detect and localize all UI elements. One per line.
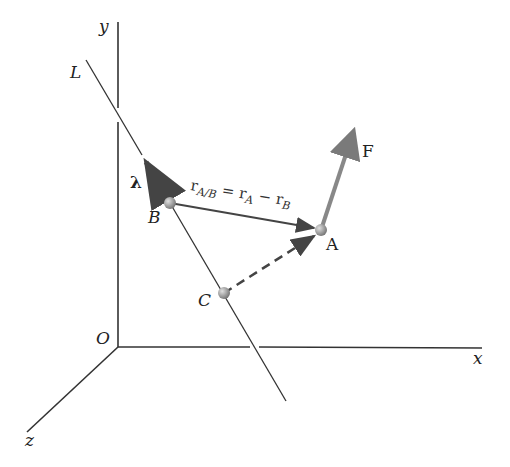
dashed-vector-c-to-a <box>224 236 314 293</box>
z-axis <box>27 347 118 432</box>
lambda-label: λ <box>130 172 142 192</box>
y-axis-label: y <box>98 16 109 36</box>
force-label-F: F <box>362 141 374 161</box>
unit-vector-lambda-arrow <box>146 162 170 203</box>
origin-label-O: O <box>96 328 110 348</box>
equation-rab: rA/B = rA − rB <box>189 176 293 213</box>
point-label-B: B <box>147 207 161 227</box>
line-label-L: L <box>69 62 81 82</box>
point-label-A: A <box>325 234 339 254</box>
x-axis-label: x <box>473 348 483 368</box>
point-C <box>218 287 230 299</box>
moment-about-axis-diagram: y L λ B A C F O x z rA/B = rA − rB <box>0 0 510 467</box>
point-label-C: C <box>198 290 211 310</box>
x-axis <box>118 347 482 348</box>
force-vector-F-arrow <box>321 142 350 230</box>
position-vector-rab-arrow <box>170 203 314 228</box>
point-B <box>164 197 176 209</box>
z-axis-label: z <box>24 430 35 450</box>
